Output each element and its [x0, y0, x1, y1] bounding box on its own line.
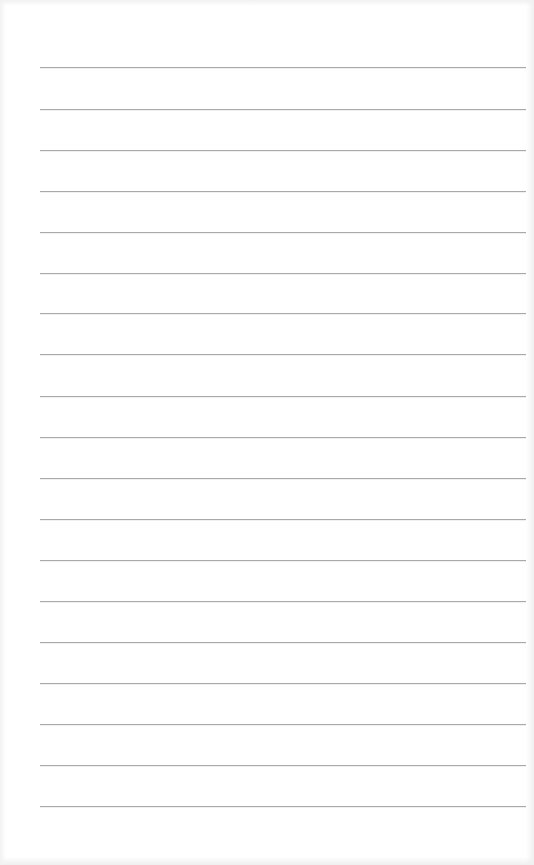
- page-edge-top: [0, 0, 534, 6]
- page-edge-left: [0, 0, 6, 865]
- page-edge-right: [526, 0, 534, 865]
- ruled-line: [40, 191, 526, 192]
- page-edge-bottom: [0, 857, 534, 865]
- ruled-line: [40, 560, 526, 561]
- ruled-line: [40, 150, 526, 151]
- ruled-line: [40, 273, 526, 274]
- ruled-line: [40, 67, 526, 68]
- ruled-line: [40, 683, 526, 684]
- ruled-line: [40, 354, 526, 355]
- ruled-line: [40, 519, 526, 520]
- ruled-line: [40, 765, 526, 766]
- ruled-line: [40, 232, 526, 233]
- ruled-line: [40, 642, 526, 643]
- ruled-line: [40, 109, 526, 110]
- ruled-line: [40, 396, 526, 397]
- ruled-line: [40, 806, 526, 807]
- ruled-line: [40, 601, 526, 602]
- ruled-line: [40, 313, 526, 314]
- ruled-line: [40, 437, 526, 438]
- lined-paper-page: [0, 0, 534, 865]
- ruled-line: [40, 724, 526, 725]
- ruled-line: [40, 478, 526, 479]
